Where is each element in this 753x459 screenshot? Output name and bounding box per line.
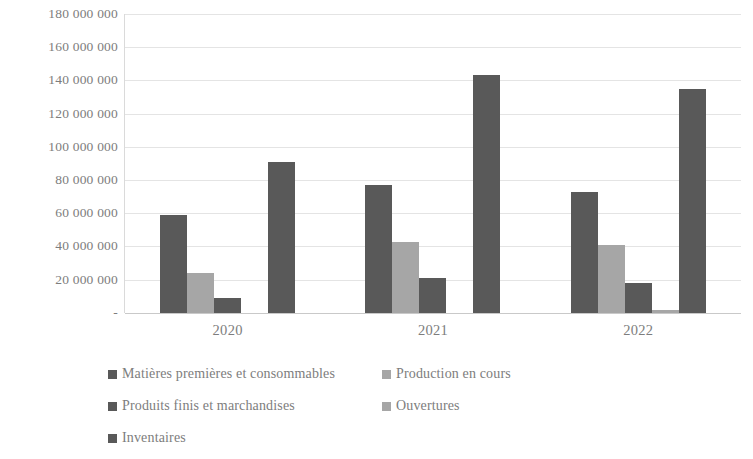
bar-groups bbox=[125, 14, 741, 313]
bar-group-2021 bbox=[330, 14, 535, 313]
bar-slot bbox=[625, 14, 652, 313]
bar-slot bbox=[214, 14, 241, 313]
bar-inventaires-2022[interactable] bbox=[679, 89, 706, 313]
bar-matieres-premieres-2021[interactable] bbox=[365, 185, 392, 313]
legend-item-ouvertures[interactable]: Ouvertures bbox=[382, 398, 460, 414]
bar-matieres-premieres-2022[interactable] bbox=[571, 192, 598, 313]
legend-item-inventaires[interactable]: Inventaires bbox=[108, 430, 382, 446]
y-tick-label: 140 000 000 bbox=[48, 74, 118, 88]
bar-inventaires-2020[interactable] bbox=[268, 162, 295, 313]
bar-slot bbox=[652, 14, 679, 313]
legend-item-produits-finis[interactable]: Produits finis et marchandises bbox=[108, 398, 382, 414]
bar-production-en-cours-2021[interactable] bbox=[392, 242, 419, 313]
bar-produits-finis-2020[interactable] bbox=[214, 298, 241, 313]
bar-slot bbox=[187, 14, 214, 313]
bar-inventaires-2021[interactable] bbox=[473, 75, 500, 313]
y-tick-label: 120 000 000 bbox=[48, 107, 118, 121]
x-tick-label-2022: 2022 bbox=[536, 318, 741, 344]
x-axis-line bbox=[125, 313, 741, 314]
legend-swatch-icon bbox=[382, 370, 391, 379]
y-tick-label: 160 000 000 bbox=[48, 40, 118, 54]
bar-slot bbox=[679, 14, 706, 313]
x-tick-label-2021: 2021 bbox=[330, 318, 535, 344]
bar-slot bbox=[419, 14, 446, 313]
legend-row: Matières premières et consommables Produ… bbox=[108, 362, 668, 386]
legend-label: Inventaires bbox=[122, 430, 186, 446]
bar-group-2020 bbox=[125, 14, 330, 313]
bar-slot bbox=[392, 14, 419, 313]
bar-slot bbox=[571, 14, 598, 313]
bar-group-2022 bbox=[536, 14, 741, 313]
x-tick-label-2020: 2020 bbox=[125, 318, 330, 344]
plot-area bbox=[125, 14, 741, 313]
legend-item-matieres-premieres[interactable]: Matières premières et consommables bbox=[108, 366, 382, 382]
legend-label: Production en cours bbox=[396, 366, 511, 382]
bar-chart: 180 000 000 160 000 000 140 000 000 120 … bbox=[0, 0, 753, 459]
bar-slot bbox=[160, 14, 187, 313]
legend-row: Inventaires bbox=[108, 426, 668, 450]
bar-production-en-cours-2020[interactable] bbox=[187, 273, 214, 313]
y-tick-label: 180 000 000 bbox=[48, 7, 118, 21]
y-tick-label: 100 000 000 bbox=[48, 140, 118, 154]
legend-swatch-icon bbox=[108, 402, 117, 411]
bar-slot bbox=[365, 14, 392, 313]
legend-label: Matières premières et consommables bbox=[122, 366, 335, 382]
bar-slot bbox=[473, 14, 500, 313]
bar-matieres-premieres-2020[interactable] bbox=[160, 215, 187, 313]
legend-swatch-icon bbox=[108, 370, 117, 379]
legend-item-production-en-cours[interactable]: Production en cours bbox=[382, 366, 511, 382]
legend-label: Ouvertures bbox=[396, 398, 460, 414]
bar-production-en-cours-2022[interactable] bbox=[598, 245, 625, 313]
bar-produits-finis-2022[interactable] bbox=[625, 283, 652, 313]
y-tick-label: 40 000 000 bbox=[55, 240, 118, 254]
bar-slot bbox=[241, 14, 268, 313]
y-tick-label: 60 000 000 bbox=[55, 206, 118, 220]
plot-wrapper: 180 000 000 160 000 000 140 000 000 120 … bbox=[0, 0, 753, 340]
y-tick-label: 80 000 000 bbox=[55, 173, 118, 187]
bar-ouvertures-2022[interactable] bbox=[652, 310, 679, 313]
bar-slot bbox=[446, 14, 473, 313]
legend-row: Produits finis et marchandises Ouverture… bbox=[108, 394, 668, 418]
y-axis-labels: 180 000 000 160 000 000 140 000 000 120 … bbox=[0, 0, 118, 340]
x-axis-labels: 2020 2021 2022 bbox=[125, 318, 741, 344]
bar-produits-finis-2021[interactable] bbox=[419, 278, 446, 313]
y-tick-label-zero: - bbox=[113, 306, 118, 320]
bar-slot bbox=[598, 14, 625, 313]
bar-slot bbox=[268, 14, 295, 313]
legend-swatch-icon bbox=[382, 402, 391, 411]
legend-swatch-icon bbox=[108, 434, 117, 443]
legend-label: Produits finis et marchandises bbox=[122, 398, 295, 414]
chart-legend: Matières premières et consommables Produ… bbox=[108, 362, 668, 458]
y-tick-label: 20 000 000 bbox=[55, 273, 118, 287]
